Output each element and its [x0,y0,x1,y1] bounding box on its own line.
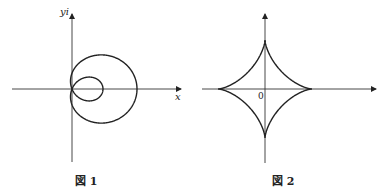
fig2-origin-label: 0 [258,91,264,101]
fig1-caption: 図 1 [75,172,97,188]
figure-1 [12,14,181,162]
fig2-caption: 図 2 [272,172,294,188]
fig1-x-axis-label: x [175,91,181,102]
fig1-y-axis-label: yi [60,6,69,17]
figure-2 [202,14,376,163]
diagram-canvas [0,0,383,195]
